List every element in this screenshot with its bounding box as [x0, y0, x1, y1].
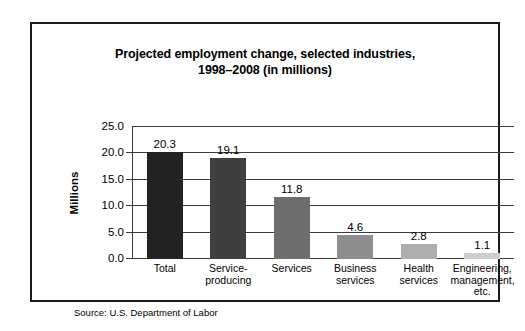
x-axis-category-label-line: etc.	[451, 286, 515, 298]
chart-figure-frame: Projected employment change, selected in…	[30, 22, 500, 302]
x-axis-category-label-line: Engineering,	[451, 263, 515, 275]
x-axis-category-label-line: Services	[260, 263, 324, 275]
chart-title-line-2: 1998–2008 (in millions)	[32, 62, 498, 78]
x-axis-category-label: Healthservices	[387, 263, 451, 286]
y-axis-tick-label: 0.0	[80, 252, 124, 264]
y-axis-tick-label: 15.0	[80, 173, 124, 185]
x-axis-category-label-line: producing	[197, 275, 261, 287]
x-axis-category-label-line: Total	[133, 263, 197, 275]
x-axis-category-label: Services	[260, 263, 324, 275]
bar-slot: 19.1	[197, 126, 261, 259]
x-axis-category-label: Total	[133, 263, 197, 275]
y-axis-tick-label: 5.0	[80, 226, 124, 238]
bar[interactable]	[210, 158, 246, 259]
x-axis-category-label: Engineering,management,etc.	[451, 263, 515, 298]
x-axis-category-label-line: Health	[387, 263, 451, 275]
bar-value-label: 20.3	[154, 138, 176, 150]
y-axis-tick-labels: 25.020.015.010.05.00.0	[76, 126, 124, 259]
y-axis-tick-label: 20.0	[80, 146, 124, 158]
x-axis-category-label-line: services	[324, 275, 388, 287]
x-axis-category-labels: TotalService-producingServicesBusinessse…	[133, 263, 514, 309]
bar-series: 20.319.111.84.62.81.1	[133, 126, 514, 259]
source-note: Source: U.S. Department of Labor	[74, 307, 218, 318]
bar-slot: 11.8	[260, 126, 324, 259]
bar-value-label: 4.6	[347, 221, 363, 233]
x-axis-category-label-line: Service-	[197, 263, 261, 275]
y-axis-tick-mark	[126, 232, 133, 233]
y-axis-tick-mark	[126, 205, 133, 206]
x-axis-category-label-line: services	[387, 275, 451, 287]
bar-slot: 20.3	[133, 126, 197, 259]
bar-value-label: 11.8	[281, 183, 303, 195]
bar[interactable]	[464, 253, 500, 259]
chart-title: Projected employment change, selected in…	[32, 46, 498, 78]
bar-slot: 2.8	[387, 126, 451, 259]
chart-title-line-1: Projected employment change, selected in…	[32, 46, 498, 62]
bar[interactable]	[337, 235, 373, 259]
bar-value-label: 2.8	[411, 230, 427, 242]
x-axis-category-label-line: Business	[324, 263, 388, 275]
bar-slot: 4.6	[324, 126, 388, 259]
bar[interactable]	[401, 244, 437, 259]
bar[interactable]	[274, 197, 310, 259]
bar-slot: 1.1	[451, 126, 515, 259]
y-axis-tick-label: 10.0	[80, 199, 124, 211]
x-axis-category-label: Businessservices	[324, 263, 388, 286]
bar[interactable]	[147, 152, 183, 259]
bar-value-label: 1.1	[474, 239, 490, 251]
y-axis-tick-mark	[126, 152, 133, 153]
y-axis-tick-label: 25.0	[80, 120, 124, 132]
y-axis-tick-mark	[126, 258, 133, 259]
x-axis-category-label: Service-producing	[197, 263, 261, 286]
y-axis-tick-mark	[126, 179, 133, 180]
bar-value-label: 19.1	[217, 144, 239, 156]
